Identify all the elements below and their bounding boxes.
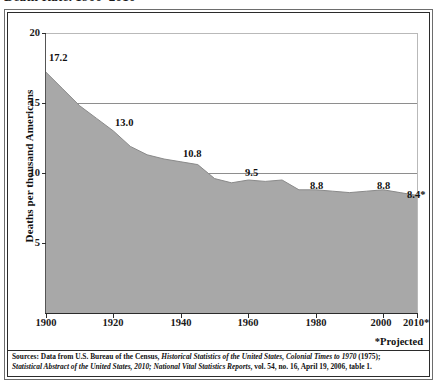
y-tickmark-5 [42,243,46,244]
y-tick-label-15: 15 [6,97,40,108]
source-line-2-italic-a: Statistical Abstract of the United State… [12,362,152,371]
y-tickmark-10 [42,173,46,174]
source-divider [8,350,429,351]
page-title: Death Rate, 1900–2010 [4,0,136,1]
x-axis-line [45,313,418,314]
data-label-1960: 9.5 [245,167,258,178]
y-tickmark-20 [42,33,46,34]
x-tick-label-1960: 1960 [226,317,270,328]
area-series [46,33,417,313]
x-tick-label-1900: 1900 [24,317,68,328]
chart-figure: Death Rate, 1900–2010 Deaths per thousan… [0,0,439,382]
y-tick-label-10: 10 [6,167,40,178]
data-label-1980: 8.8 [310,180,323,191]
source-note: Sources: Data from U.S. Bureau of the Ce… [12,352,430,373]
source-line-1-suffix: (1975); [356,352,380,361]
data-label-2010: 8.4* [407,189,425,200]
data-label-2000: 8.8 [377,180,390,191]
source-line-2: Statistical Abstract of the United State… [12,362,430,372]
x-tick-label-1920: 1920 [91,317,135,328]
plot-border-right [417,33,418,314]
source-line-2-italic-b: National Vital Statistics Reports [152,362,251,371]
data-label-1920: 13.0 [115,117,133,128]
data-label-1940: 10.8 [183,148,201,159]
projected-footnote: *Projected [375,336,423,347]
y-tick-label-20: 20 [6,27,40,38]
y-tick-label-5: 5 [6,237,40,248]
source-line-2-suffix: , vol. 54, no. 16, April 19, 2006, table… [251,362,372,371]
source-line-1-prefix: Sources: Data from U.S. Bureau of the Ce… [12,352,161,361]
x-tick-label-1940: 1940 [159,317,203,328]
source-line-1-italic: Historical Statistics of the United Stat… [161,352,356,361]
data-label-1900: 17.2 [49,52,67,63]
x-tick-label-1980: 1980 [294,317,338,328]
x-tick-label-2010: 2010* [394,317,438,328]
y-tickmark-15 [42,103,46,104]
source-line-1: Sources: Data from U.S. Bureau of the Ce… [12,352,430,362]
